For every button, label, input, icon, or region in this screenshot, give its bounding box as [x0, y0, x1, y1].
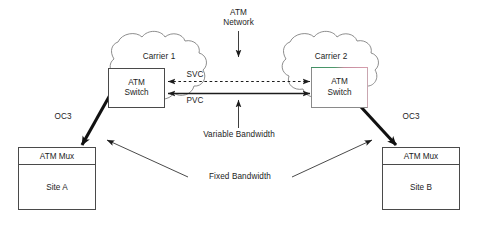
atm-mux-site-b[interactable]: ATM Mux Site B [382, 147, 460, 210]
atm-switch-carrier2-line1: ATM [331, 77, 348, 87]
atm-mux-site-a-header: ATM Mux [19, 148, 95, 165]
switch-highlight-edge [311, 67, 368, 68]
oc3-link-left [82, 95, 110, 145]
atm-switch-carrier1[interactable]: ATM Switch [108, 68, 165, 108]
atm-switch-carrier1-line1: ATM [128, 78, 145, 88]
atm-switch-carrier1-line2: Switch [124, 88, 148, 98]
atm-switch-carrier2[interactable]: ATM Switch [311, 68, 368, 108]
atm-network-diagram: ATM Network Carrier 1 Carrier 2 ATM Swit… [0, 0, 477, 227]
atm-mux-site-a[interactable]: ATM Mux Site A [18, 147, 96, 210]
atm-mux-site-b-header: ATM Mux [383, 148, 459, 165]
atm-mux-site-a-site: Site A [19, 165, 95, 209]
atm-mux-site-b-site: Site B [383, 165, 459, 209]
fixed-bandwidth-leader-left [107, 140, 188, 177]
atm-switch-carrier2-line2: Switch [327, 88, 351, 98]
fixed-bandwidth-leader-right [292, 140, 372, 177]
